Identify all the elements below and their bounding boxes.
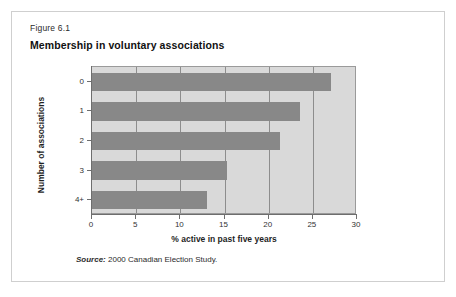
bar-row	[92, 73, 355, 91]
plot-area	[91, 66, 356, 214]
x-tick-label-10: 10	[175, 220, 184, 229]
bar-3	[92, 161, 227, 179]
y-tick-0	[87, 81, 91, 82]
x-tick-label-15: 15	[219, 220, 228, 229]
source-text: 2000 Canadian Election Study.	[106, 255, 217, 264]
y-axis-line	[91, 66, 92, 215]
y-tick-label-4+: 4+	[75, 195, 84, 204]
source-note: Source: 2000 Canadian Election Study.	[76, 255, 217, 264]
bar-chart: 051015202530 01234+ % active in past fiv…	[12, 12, 446, 283]
bar-row	[92, 102, 355, 120]
x-tick-label-0: 0	[89, 220, 93, 229]
x-tick-label-20: 20	[263, 220, 272, 229]
x-tick-label-30: 30	[352, 220, 361, 229]
figure-frame: Figure 6.1 Membership in voluntary assoc…	[11, 11, 445, 282]
x-tick-0	[91, 215, 92, 219]
y-tick-label-0: 0	[80, 76, 84, 85]
bar-4+	[92, 191, 207, 209]
x-axis-title: % active in past five years	[91, 234, 357, 244]
x-tick-label-5: 5	[133, 220, 137, 229]
bar-row	[92, 161, 355, 179]
y-tick-3	[87, 170, 91, 171]
bar-row	[92, 191, 355, 209]
bars-layer	[92, 67, 355, 213]
y-axis-title: Number of associations	[36, 85, 46, 205]
x-tick-30	[356, 215, 357, 219]
bar-row	[92, 132, 355, 150]
bar-0	[92, 73, 331, 91]
x-tick-5	[135, 215, 136, 219]
y-tick-2	[87, 140, 91, 141]
x-tick-label-25: 25	[307, 220, 316, 229]
x-tick-10	[179, 215, 180, 219]
x-tick-20	[268, 215, 269, 219]
bar-2	[92, 132, 280, 150]
bar-1	[92, 102, 300, 120]
x-tick-25	[312, 215, 313, 219]
y-tick-1	[87, 110, 91, 111]
y-tick-label-2: 2	[80, 136, 84, 145]
y-tick-label-3: 3	[80, 165, 84, 174]
y-tick-4+	[87, 199, 91, 200]
x-tick-15	[224, 215, 225, 219]
y-tick-label-1: 1	[80, 106, 84, 115]
source-label: Source:	[76, 255, 106, 264]
